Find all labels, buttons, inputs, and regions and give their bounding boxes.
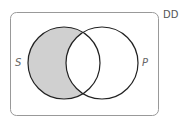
label-p: P xyxy=(142,57,148,68)
corner-label: DD xyxy=(163,9,178,20)
venn-diagram xyxy=(0,0,186,122)
label-s: S xyxy=(15,57,21,68)
